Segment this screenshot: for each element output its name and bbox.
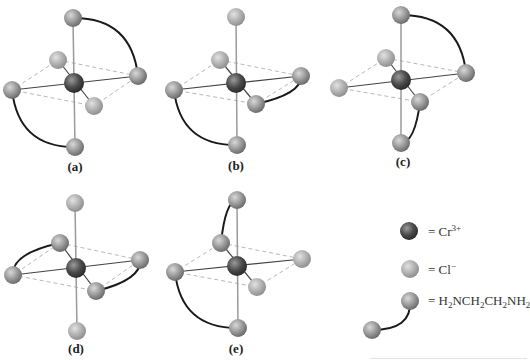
chelate-arc <box>174 90 237 145</box>
ligand-atom-right <box>293 250 311 268</box>
panel-label-d: (d) <box>68 341 84 357</box>
legend-cl-text: = Cl− <box>428 261 456 278</box>
ligand-atom-left <box>330 79 348 97</box>
ligand-atom-top <box>227 8 245 26</box>
ligand-atom-left <box>166 263 184 281</box>
isomer-panel-d <box>4 194 149 340</box>
ligand-atom-right <box>131 251 149 269</box>
legend <box>363 222 419 339</box>
ligand-atom-back_left <box>51 234 69 252</box>
chromium-atom <box>66 258 86 278</box>
chromium-atom <box>391 70 411 90</box>
ligand-atom-front_right <box>248 278 266 296</box>
isomer-panel-c <box>330 6 475 152</box>
chelate-arc <box>175 272 238 328</box>
isomer-panel-e <box>166 191 311 337</box>
ligand-atom-front_right <box>247 95 265 113</box>
ligand-atom-front_right <box>87 282 105 300</box>
ligand-atom-back_left <box>377 49 395 67</box>
panel-label-c: (c) <box>396 154 410 170</box>
ligand-atom-left <box>3 81 21 99</box>
ligand-atom-front_right <box>411 93 429 111</box>
ligand-atom-bottom <box>68 322 86 340</box>
ligand-atom-back_left <box>49 51 67 69</box>
ligand-atom-right <box>457 64 475 82</box>
panel-label-a: (a) <box>67 159 82 175</box>
ligand-atom-left <box>4 266 22 284</box>
ligand-atom-back_left <box>212 234 230 252</box>
ligand-atom-top <box>66 194 84 212</box>
chelate-arc <box>73 18 138 76</box>
chromium-atom <box>64 73 84 93</box>
ligand-atom-bottom <box>392 134 410 152</box>
ligand-atom-front_right <box>85 97 103 115</box>
legend-cr-sphere <box>400 222 418 240</box>
legend-en-tail-sphere <box>363 321 381 339</box>
ligand-atom-back_left <box>211 51 229 69</box>
ligand-atom-bottom <box>228 136 246 154</box>
legend-en-sphere <box>401 292 419 310</box>
ligand-atom-top <box>228 191 246 209</box>
isomer-panel-b <box>165 8 310 154</box>
ligand-atom-top <box>392 6 410 24</box>
ligand-atom-right <box>292 67 310 85</box>
legend-cr-text: = Cr3+ <box>428 223 461 240</box>
ligand-atom-left <box>165 81 183 99</box>
panel-label-b: (b) <box>228 158 244 174</box>
divider-line <box>370 358 527 359</box>
ligand-atom-bottom <box>229 319 247 337</box>
chelate-arc <box>401 15 466 73</box>
panel-label-e: (e) <box>229 341 243 357</box>
chromium-atom <box>226 73 246 93</box>
legend-en-text: = H2NCH2CH2NH2 <box>428 293 530 310</box>
chromium-atom <box>227 256 247 276</box>
ligand-atom-bottom <box>66 138 84 156</box>
isomer-panel-a <box>3 9 147 156</box>
ligand-atom-right <box>129 67 147 85</box>
chelate-arc <box>12 90 75 147</box>
legend-cl-sphere <box>401 260 419 278</box>
ligand-atom-top <box>64 9 82 27</box>
